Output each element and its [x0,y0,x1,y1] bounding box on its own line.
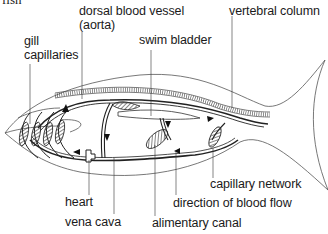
arrow-icons [62,104,214,155]
label-alimentary-canal: alimentary canal [152,216,241,230]
label-vena-cava: vena cava [65,215,121,229]
label-gill: gill [24,34,39,48]
dorsal-aorta [38,100,268,131]
fish-circulation-diagram: fish [0,0,328,234]
fish-outline [5,60,328,190]
label-heart: heart [65,195,93,209]
swim-bladder [118,110,200,119]
label-dorsal-blood-vessel: dorsal blood vessel [79,4,184,18]
label-gill-capillaries: capillaries [24,48,78,62]
label-aorta: (aorta) [79,18,115,32]
label-vertebral-column: vertebral column [229,4,320,18]
label-direction-of-blood-flow: direction of blood flow [173,196,292,210]
label-swim-bladder: swim bladder [139,33,211,47]
label-capillary-network: capillary network [210,177,301,191]
